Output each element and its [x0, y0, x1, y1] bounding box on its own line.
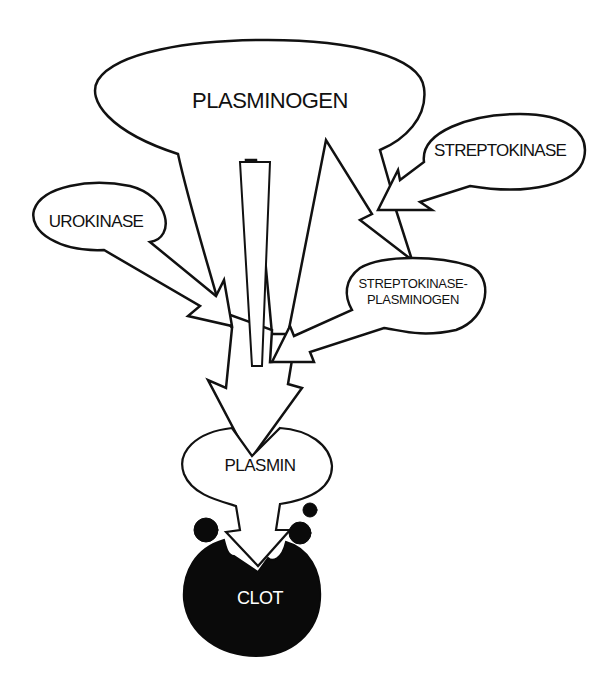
clot-label: CLOT — [200, 588, 320, 609]
streptokinase-plasminogen-line2: PLASMINOGEN — [352, 292, 474, 308]
streptokinase-plasminogen-line1: STREPTOKINASE- — [352, 276, 474, 292]
urokinase-label: UROKINASE — [26, 212, 166, 232]
clot-fragment — [303, 503, 317, 517]
streptokinase-plasminogen-bubble — [272, 258, 485, 362]
streptokinase-plasminogen-label: STREPTOKINASE- PLASMINOGEN — [352, 276, 474, 308]
plasminogen-label: PLASMINOGEN — [150, 88, 390, 114]
plasmin-label: PLASMIN — [190, 456, 330, 476]
streptokinase-label: STREPTOKINASE — [420, 141, 580, 161]
clot-fragment — [289, 522, 311, 544]
clot-fragment — [194, 518, 218, 542]
